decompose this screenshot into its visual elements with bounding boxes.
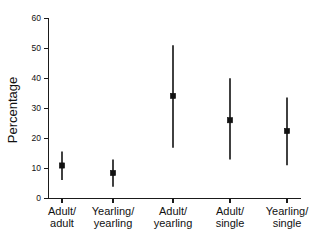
y-tick-label-30: 30 — [32, 103, 42, 113]
y-tick-label-10: 10 — [32, 163, 42, 173]
chart-container: 60 50 40 30 20 10 0 Percentage Adult/adu… — [0, 0, 328, 241]
data-point-group — [170, 45, 175, 148]
x-axis-label-line1: Yearling/ — [266, 206, 308, 218]
x-axis-label-3: Adult/single — [216, 206, 245, 229]
y-tick-label-0: 0 — [36, 193, 41, 203]
data-point-marker — [110, 170, 115, 175]
data-point-marker — [284, 128, 289, 133]
x-axis-label-line2: yearling — [92, 218, 134, 230]
x-axis-label-0: Adult/adult — [48, 206, 76, 229]
y-tick-label-40: 40 — [32, 73, 42, 83]
x-axis-label-line2: adult — [48, 218, 76, 230]
data-point-marker — [170, 93, 175, 98]
data-point-group — [59, 151, 64, 180]
data-point-marker — [59, 163, 64, 168]
y-tick-label-60: 60 — [32, 13, 42, 23]
data-point-group — [110, 160, 115, 187]
x-axis-label-line2: single — [266, 218, 308, 230]
y-tick-label-50: 50 — [32, 43, 42, 53]
x-axis-label-line1: Adult/ — [48, 206, 76, 218]
x-axis-label-line2: single — [216, 218, 245, 230]
data-series-layer — [59, 45, 289, 187]
x-axis-label-line1: Yearling/ — [92, 206, 134, 218]
y-tick-label-20: 20 — [32, 133, 42, 143]
x-axis-label-line2: yearling — [154, 218, 193, 230]
x-axis-label-4: Yearling/single — [266, 206, 308, 229]
x-axis-label-line1: Adult/ — [154, 206, 193, 218]
data-point-group — [227, 78, 232, 159]
y-axis-title: Percentage — [5, 77, 20, 144]
data-point-group — [284, 97, 289, 165]
x-axis-label-line1: Adult/ — [216, 206, 245, 218]
y-tick-labels: 60 50 40 30 20 10 0 — [32, 13, 42, 203]
x-axis-label-2: Adult/yearling — [154, 206, 193, 229]
data-point-marker — [227, 118, 232, 123]
x-axis-label-1: Yearling/yearling — [92, 206, 134, 229]
